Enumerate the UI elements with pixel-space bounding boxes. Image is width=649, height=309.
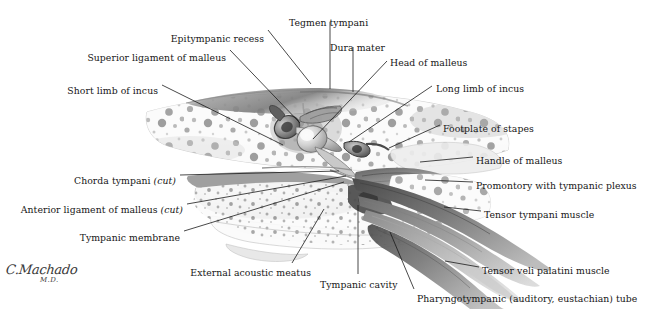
label-text: Tensor veli palatini muscle	[482, 265, 610, 276]
leader-tensor-veli-palatini-muscle	[445, 261, 479, 267]
label-text: External acoustic meatus	[190, 267, 311, 278]
label-text: Tympanic membrane	[80, 232, 180, 243]
leader-anterior-ligament-of-malleus-cut	[187, 176, 346, 204]
leader-tympanic-membrane	[184, 182, 344, 231]
label-footplate-of-stapes: Footplate of stapes	[443, 123, 534, 134]
anatomical-figure: Epitympanic recessTegmen tympaniDura mat…	[0, 0, 649, 309]
label-text: Tegmen tympani	[289, 17, 368, 28]
label-tympanic-membrane: Tympanic membrane	[80, 232, 180, 243]
label-text: Anterior ligament of malleus	[21, 204, 161, 215]
label-superior-ligament-of-malleus: Superior ligament of malleus	[87, 52, 226, 63]
label-tensor-tympani-muscle: Tensor tympani muscle	[484, 209, 594, 220]
leader-footplate-of-stapes	[389, 125, 440, 148]
label-text: Chorda tympani	[74, 175, 154, 186]
label-text: Pharyngotympanic (auditory, eustachian) …	[417, 293, 637, 304]
label-text: Epitympanic recess	[171, 33, 264, 44]
label-text: Tympanic cavity	[320, 279, 398, 290]
label-dura-mater: Dura mater	[330, 42, 385, 53]
label-promontory-with-tympanic-plexus: Promontory with tympanic plexus	[476, 180, 637, 191]
label-text: Superior ligament of malleus	[87, 52, 226, 63]
leader-short-limb-of-incus	[162, 85, 283, 145]
leader-external-acoustic-meatus	[292, 209, 324, 263]
label-pharyngotympanic-tube: Pharyngotympanic (auditory, eustachian) …	[417, 293, 637, 304]
label-text: Handle of malleus	[476, 155, 562, 166]
artist-signature: C.Machado M.D.	[6, 262, 78, 284]
label-head-of-malleus: Head of malleus	[390, 57, 467, 68]
label-text: Dura mater	[330, 42, 385, 53]
label-anterior-ligament-of-malleus-cut: Anterior ligament of malleus (cut)	[21, 204, 183, 215]
label-text: Tensor tympani muscle	[484, 209, 594, 220]
leader-long-limb-of-incus	[349, 86, 432, 142]
signature-name: C.Machado	[5, 262, 78, 277]
signature-credential: M.D.	[40, 276, 78, 284]
leader-promontory-with-tympanic-plexus	[425, 180, 473, 182]
label-tensor-veli-palatini-muscle: Tensor veli palatini muscle	[482, 265, 610, 276]
label-long-limb-of-incus: Long limb of incus	[436, 83, 524, 94]
label-epitympanic-recess: Epitympanic recess	[171, 33, 264, 44]
leader-chorda-tympani-cut	[180, 171, 339, 175]
label-text: Head of malleus	[390, 57, 467, 68]
leader-epitympanic-recess	[268, 30, 311, 84]
label-text: Promontory with tympanic plexus	[476, 180, 637, 191]
label-tympanic-cavity: Tympanic cavity	[320, 279, 398, 290]
label-text: Footplate of stapes	[443, 123, 534, 134]
leader-handle-of-malleus	[420, 157, 473, 162]
label-text: Long limb of incus	[436, 83, 524, 94]
label-qualifier: (cut)	[154, 175, 176, 186]
leader-superior-ligament-of-malleus	[230, 50, 300, 123]
label-handle-of-malleus: Handle of malleus	[476, 155, 562, 166]
label-tegmen-tympani: Tegmen tympani	[289, 17, 368, 28]
label-qualifier: (cut)	[161, 204, 183, 215]
label-short-limb-of-incus: Short limb of incus	[67, 85, 158, 96]
leader-tensor-tympani-muscle	[444, 207, 481, 211]
label-text: Short limb of incus	[67, 85, 158, 96]
label-chorda-tympani-cut: Chorda tympani (cut)	[74, 175, 176, 186]
label-external-acoustic-meatus: External acoustic meatus	[190, 267, 311, 278]
leader-head-of-malleus	[313, 61, 387, 139]
